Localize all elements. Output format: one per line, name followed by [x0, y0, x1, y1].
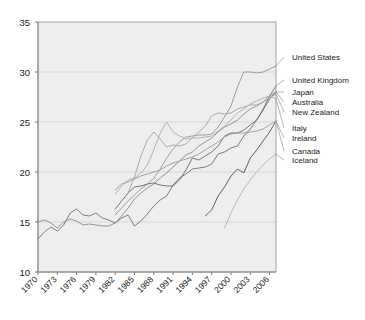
legend-leader-line	[276, 57, 284, 66]
legend-label-new-zealand[interactable]: New Zealand	[292, 108, 339, 117]
plot-background	[38, 22, 276, 272]
legend-label-united-kingdom[interactable]: United Kingdom	[292, 76, 349, 85]
legend: United StatesUnited KingdomJapanAustrali…	[276, 53, 349, 165]
y-tick-label: 30	[19, 67, 30, 78]
legend-label-ireland[interactable]: Ireland	[292, 134, 316, 143]
legend-label-united-states[interactable]: United States	[292, 53, 340, 62]
x-tick-label: 1985	[115, 274, 136, 295]
x-tick-label: 2006	[251, 274, 272, 295]
legend-label-australia[interactable]: Australia	[292, 98, 324, 107]
legend-leader-line	[276, 80, 284, 86]
chart-container: 101520253035 197019731976197919821985198…	[0, 0, 365, 320]
y-tick-label: 20	[19, 167, 30, 178]
x-tick-label: 1994	[173, 274, 194, 295]
y-axis: 101520253035	[19, 17, 38, 278]
y-tick-label: 25	[19, 117, 30, 128]
y-tick-label: 35	[19, 17, 30, 28]
x-tick-label: 1988	[135, 274, 156, 295]
x-tick-label: 1973	[38, 274, 59, 295]
x-tick-label: 1976	[58, 274, 79, 295]
y-tick-label: 10	[19, 267, 30, 278]
x-tick-label: 1979	[77, 274, 98, 295]
legend-label-japan[interactable]: Japan	[292, 88, 314, 97]
legend-leader-line	[276, 154, 284, 160]
x-tick-label: 2003	[231, 274, 252, 295]
legend-label-italy[interactable]: Italy	[292, 124, 307, 133]
line-chart: 101520253035 197019731976197919821985198…	[0, 0, 365, 320]
legend-label-iceland[interactable]: Iceland	[292, 156, 318, 165]
y-tick-label: 15	[19, 217, 30, 228]
x-tick-label: 2000	[212, 274, 233, 295]
legend-label-canada[interactable]: Canada	[292, 147, 321, 156]
x-tick-label: 1997	[193, 274, 214, 295]
x-axis: 1970197319761979198219851988199119941997…	[19, 272, 276, 295]
x-tick-label: 1991	[154, 274, 175, 295]
x-tick-label: 1982	[96, 274, 117, 295]
